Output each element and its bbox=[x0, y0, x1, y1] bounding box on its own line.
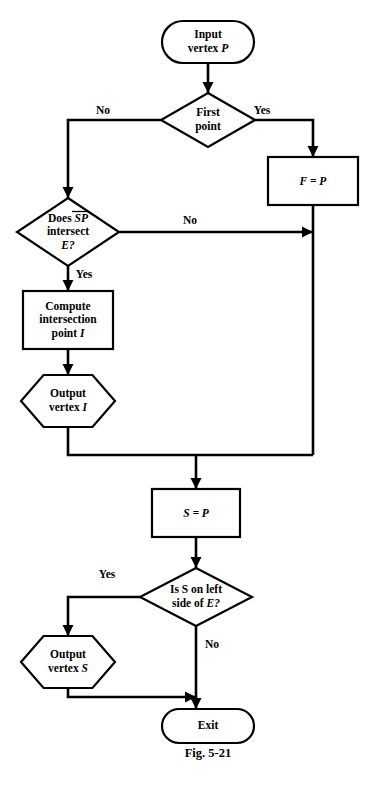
compute-intersection-text-line: intersection bbox=[39, 313, 97, 325]
output-vertex-s-text-line: Output bbox=[50, 648, 86, 661]
connector-first-point-yes-to-f bbox=[255, 120, 313, 157]
flowchart-figure: Inputvertex PFirstpointF = PDoes SPinter… bbox=[0, 0, 371, 790]
does-sp-intersect-e-text-line: Does SP bbox=[48, 212, 89, 224]
connector-output-i-to-merge bbox=[68, 427, 313, 455]
edge-label-layer: NoYesNoYesYesNo bbox=[76, 104, 271, 650]
edge-label-no-first-point: No bbox=[96, 104, 110, 116]
edge-label-yes-is-s-left: Yes bbox=[99, 568, 116, 580]
first-point-text-line: point bbox=[195, 120, 221, 133]
f-equals-p-text-line: F = P bbox=[299, 174, 328, 186]
figure-caption: Fig. 5-21 bbox=[185, 746, 232, 760]
compute-intersection-text-line: point I bbox=[52, 327, 85, 340]
does-sp-intersect-e-text-line: E? bbox=[60, 239, 75, 251]
edge-label-no-sp-intersect: No bbox=[183, 214, 197, 226]
connector-input-to-first-point-arrowhead bbox=[203, 82, 214, 93]
process-s-equals-p: S = P bbox=[152, 489, 240, 537]
decision-first-point: Firstpoint bbox=[161, 93, 255, 147]
connector-sp-yes-to-compute-arrowhead bbox=[63, 280, 74, 291]
process-f-equals-p: F = P bbox=[268, 157, 358, 205]
connector-output-s-to-exit-rail bbox=[68, 688, 196, 697]
input-vertex-p-text-line: vertex P bbox=[188, 42, 230, 54]
output-vertex-i-text-line: vertex I bbox=[49, 401, 88, 413]
output-vertex-i-text-line: Output bbox=[50, 387, 86, 400]
terminal-input-vertex-p: Inputvertex P bbox=[162, 21, 254, 63]
process-compute-intersection-point-i: Computeintersectionpoint I bbox=[23, 291, 113, 349]
flowchart-canvas: Inputvertex PFirstpointF = PDoes SPinter… bbox=[0, 0, 371, 790]
output-vertex-s-text-line: vertex S bbox=[48, 662, 88, 674]
connector-s-equals-p-to-decision-arrowhead bbox=[191, 557, 202, 568]
connector-yes-to-output-s bbox=[68, 597, 140, 636]
s-equals-p-text-line: S = P bbox=[183, 506, 210, 518]
output-vertex-s-hexagon: Outputvertex S bbox=[21, 636, 115, 688]
connector-first-point-yes-to-f-arrowhead bbox=[308, 146, 319, 157]
edge-label-yes-first-point: Yes bbox=[254, 104, 271, 116]
decision-is-s-on-left-side-of-e: Is S on leftside of E? bbox=[140, 568, 252, 626]
connector-compute-to-output-i-arrowhead bbox=[63, 364, 74, 375]
input-vertex-p-text-line: Input bbox=[194, 28, 222, 41]
connector-yes-to-output-s-arrowhead bbox=[63, 625, 74, 636]
is-s-on-left-text-line: side of E? bbox=[172, 597, 220, 609]
exit-text-line: Exit bbox=[198, 719, 219, 731]
output-vertex-i-hexagon: Outputvertex I bbox=[21, 375, 115, 427]
connector-no-to-exit-arrowhead bbox=[191, 698, 202, 709]
is-s-on-left-text-line: Is S on left bbox=[170, 583, 222, 595]
connector-merge-to-s-equals-p-arrowhead bbox=[191, 478, 202, 489]
edge-label-yes-sp-intersect: Yes bbox=[76, 268, 93, 280]
edge-label-no-is-s-left: No bbox=[205, 638, 219, 650]
connector-first-point-no-to-sp bbox=[68, 120, 161, 198]
decision-does-sp-intersect-e: Does SPintersectE? bbox=[17, 198, 119, 266]
compute-intersection-text-line: Compute bbox=[45, 300, 90, 313]
connector-sp-no-to-right-rail-arrowhead bbox=[302, 227, 313, 238]
terminal-exit: Exit bbox=[162, 709, 254, 743]
does-sp-intersect-e-text-line: intersect bbox=[47, 225, 89, 237]
connector-first-point-no-to-sp-arrowhead bbox=[63, 187, 74, 198]
first-point-text-line: First bbox=[196, 106, 220, 118]
